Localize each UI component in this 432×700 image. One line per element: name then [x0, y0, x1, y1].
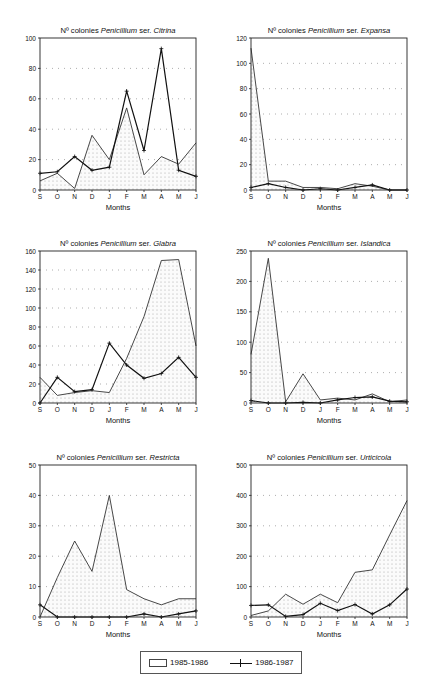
- x-tick-label: F: [336, 193, 340, 200]
- x-tick-label: O: [266, 193, 271, 200]
- y-tick-label: 100: [236, 583, 247, 590]
- x-tick-label: J: [319, 620, 322, 627]
- y-tick-label: 20: [29, 381, 37, 388]
- x-tick-label: S: [249, 193, 254, 200]
- x-tick-label: F: [125, 620, 129, 627]
- series-1985-1986-line: [251, 48, 407, 190]
- x-axis-label: Months: [106, 203, 131, 212]
- x-tick-label: M: [387, 406, 392, 413]
- x-tick-label: S: [249, 406, 254, 413]
- x-tick-label: A: [159, 620, 164, 627]
- series-1985-1986-area: [251, 48, 407, 190]
- legend-item-1986-1987: 1986-1987: [216, 658, 293, 667]
- x-axis-label: Months: [317, 630, 342, 639]
- chart-panel-expansa: Nº colonies Penicillium ser. Expansa0204…: [211, 0, 427, 215]
- y-tick-label: 20: [29, 156, 37, 163]
- shaded-area-swatch-icon: [149, 659, 167, 667]
- y-tick-label: 100: [25, 305, 36, 312]
- x-tick-label: O: [55, 193, 60, 200]
- y-tick-label: 20: [29, 553, 37, 560]
- x-tick-label: J: [194, 620, 197, 627]
- series-1985-1986-area: [251, 258, 407, 403]
- y-tick-label: 120: [25, 286, 36, 293]
- x-tick-label: S: [38, 193, 43, 200]
- chart-legend: 1985-1986 1986-1987: [140, 651, 302, 674]
- x-tick-label: N: [283, 406, 288, 413]
- legend-item-1985-1986: 1985-1986: [149, 658, 208, 667]
- y-tick-label: 400: [236, 492, 247, 499]
- x-axis-label: Months: [317, 416, 342, 425]
- x-tick-label: J: [108, 193, 111, 200]
- x-tick-label: A: [370, 406, 375, 413]
- y-tick-label: 0: [243, 400, 247, 407]
- x-tick-label: M: [141, 620, 146, 627]
- y-tick-label: 60: [240, 111, 248, 118]
- y-tick-label: 300: [236, 522, 247, 529]
- chart-svg: Nº colonies Penicillium ser. Urticicola0…: [211, 427, 427, 642]
- y-tick-label: 150: [236, 308, 247, 315]
- x-tick-label: J: [108, 406, 111, 413]
- x-tick-label: O: [266, 620, 271, 627]
- x-tick-label: M: [387, 193, 392, 200]
- series-1985-1986-area: [40, 108, 196, 190]
- x-tick-label: O: [266, 406, 271, 413]
- x-tick-label: A: [370, 193, 375, 200]
- x-tick-label: D: [301, 620, 306, 627]
- chart-svg: Nº colonies Penicillium ser. Expansa0204…: [211, 0, 427, 215]
- x-tick-label: D: [90, 406, 95, 413]
- x-tick-label: M: [176, 406, 181, 413]
- chart-title: Nº colonies Penicillium ser. Islandica: [267, 239, 390, 248]
- y-tick-label: 40: [29, 492, 37, 499]
- x-tick-label: J: [405, 193, 408, 200]
- chart-panel-citrina: Nº colonies Penicillium ser. Citrina0204…: [0, 0, 216, 215]
- x-tick-label: M: [176, 620, 181, 627]
- x-tick-label: O: [55, 620, 60, 627]
- y-tick-label: 0: [32, 187, 36, 194]
- chart-panel-urticicola: Nº colonies Penicillium ser. Urticicola0…: [211, 427, 427, 642]
- chart-title: Nº colonies Penicillium ser. Citrina: [60, 26, 175, 35]
- y-tick-label: 30: [29, 522, 37, 529]
- x-tick-label: M: [176, 193, 181, 200]
- y-tick-label: 200: [236, 278, 247, 285]
- y-tick-label: 60: [29, 343, 37, 350]
- x-tick-label: A: [370, 620, 375, 627]
- y-tick-label: 200: [236, 553, 247, 560]
- y-tick-label: 140: [25, 267, 36, 274]
- x-tick-label: F: [336, 406, 340, 413]
- y-tick-label: 80: [29, 65, 37, 72]
- y-tick-label: 40: [29, 126, 37, 133]
- chart-svg: Nº colonies Penicillium ser. Citrina0204…: [0, 0, 216, 215]
- x-tick-label: M: [352, 406, 357, 413]
- x-tick-label: N: [72, 193, 77, 200]
- x-axis-label: Months: [106, 416, 131, 425]
- x-tick-label: M: [352, 620, 357, 627]
- y-tick-label: 50: [240, 369, 248, 376]
- x-tick-label: S: [38, 620, 43, 627]
- chart-title: Nº colonies Penicillium ser. Glabra: [60, 239, 176, 248]
- x-tick-label: J: [194, 193, 197, 200]
- y-tick-label: 0: [32, 400, 36, 407]
- y-tick-label: 120: [236, 35, 247, 42]
- y-tick-label: 0: [243, 187, 247, 194]
- legend-label: 1986-1987: [255, 658, 293, 667]
- y-tick-label: 80: [240, 85, 248, 92]
- x-tick-label: F: [125, 193, 129, 200]
- legend-label: 1985-1986: [170, 658, 208, 667]
- line-cross-marker-icon: [230, 659, 252, 667]
- x-tick-label: A: [159, 193, 164, 200]
- y-tick-label: 40: [29, 362, 37, 369]
- x-tick-label: M: [141, 193, 146, 200]
- x-tick-label: D: [301, 406, 306, 413]
- y-tick-label: 0: [243, 614, 247, 621]
- y-tick-label: 100: [236, 60, 247, 67]
- y-tick-label: 10: [29, 583, 37, 590]
- x-tick-label: J: [405, 406, 408, 413]
- y-tick-label: 100: [236, 339, 247, 346]
- x-tick-label: D: [301, 193, 306, 200]
- y-tick-label: 100: [25, 35, 36, 42]
- chart-panel-glabra: Nº colonies Penicillium ser. Glabra02040…: [0, 213, 216, 428]
- x-tick-label: M: [387, 620, 392, 627]
- chart-panel-restricta: Nº colonies Penicillium ser. Restricta01…: [0, 427, 216, 642]
- x-tick-label: S: [38, 406, 43, 413]
- chart-svg: Nº colonies Penicillium ser. Glabra02040…: [0, 213, 216, 428]
